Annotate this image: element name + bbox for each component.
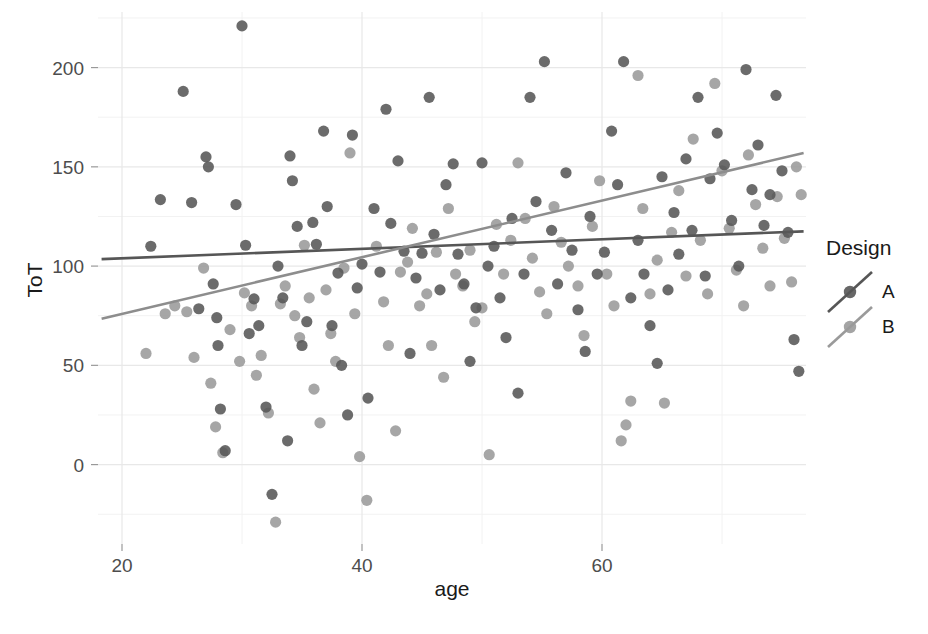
data-point-a (307, 217, 318, 228)
data-point-a (572, 304, 583, 315)
data-point-a (186, 197, 197, 208)
data-point-a (592, 268, 603, 279)
data-point-a (638, 268, 649, 279)
data-point-b (572, 280, 583, 291)
data-point-b (791, 161, 802, 172)
legend-title: Design (826, 236, 891, 259)
data-point-b (188, 352, 199, 363)
data-point-a (530, 196, 541, 207)
data-point-b (652, 255, 663, 266)
data-point-b (738, 300, 749, 311)
data-point-a (452, 249, 463, 260)
data-point-a (652, 358, 663, 369)
data-point-b (464, 245, 475, 256)
y-tick-label: 150 (52, 157, 84, 178)
data-point-b (644, 288, 655, 299)
data-point-a (404, 348, 415, 359)
data-point-b (256, 350, 267, 361)
data-point-a (266, 489, 277, 500)
data-point-a (292, 221, 303, 232)
data-point-b (314, 417, 325, 428)
data-point-b (512, 157, 523, 168)
data-point-a (311, 239, 322, 250)
data-point-a (212, 340, 223, 351)
data-point-b (431, 247, 442, 258)
data-point-a (385, 218, 396, 229)
data-point-a (518, 268, 529, 279)
data-point-a (632, 235, 643, 246)
data-point-a (336, 360, 347, 371)
y-tick-label: 100 (52, 256, 84, 277)
data-point-a (287, 175, 298, 186)
data-point-a (296, 340, 307, 351)
data-point-a (203, 161, 214, 172)
data-point-a (352, 282, 363, 293)
data-point-b (205, 378, 216, 389)
legend-key-dot-b (844, 321, 856, 333)
data-point-a (448, 158, 459, 169)
data-point-b (608, 300, 619, 311)
data-point-b (354, 451, 365, 462)
data-point-a (758, 220, 769, 231)
data-point-a (211, 312, 222, 323)
data-point-b (594, 175, 605, 186)
data-point-a (458, 278, 469, 289)
data-point-a (712, 127, 723, 138)
data-point-b (289, 310, 300, 321)
data-point-b (320, 284, 331, 295)
y-tick-label: 200 (52, 58, 84, 79)
data-point-b (421, 288, 432, 299)
data-point-a (625, 292, 636, 303)
data-point-b (469, 316, 480, 327)
data-point-a (612, 179, 623, 190)
data-point-b (443, 203, 454, 214)
data-point-b (383, 340, 394, 351)
data-point-b (616, 435, 627, 446)
data-point-b (587, 221, 598, 232)
data-point-b (601, 268, 612, 279)
x-tick-label: 40 (351, 555, 372, 576)
data-point-b (750, 199, 761, 210)
y-tick-label: 0 (73, 455, 84, 476)
data-point-a (618, 56, 629, 67)
data-point-a (248, 293, 259, 304)
scatter-plot-figure: 204060 050100150200 age ToT Design A B (0, 0, 928, 634)
data-point-b (390, 425, 401, 436)
data-point-a (494, 292, 505, 303)
data-point-b (764, 280, 775, 291)
data-point-b (484, 449, 495, 460)
data-point-a (236, 20, 247, 31)
data-point-b (280, 280, 291, 291)
data-point-a (342, 409, 353, 420)
data-point-b (786, 276, 797, 287)
data-point-b (702, 288, 713, 299)
data-point-b (688, 133, 699, 144)
data-point-a (606, 126, 617, 137)
data-point-b (198, 262, 209, 273)
data-point-b (709, 78, 720, 89)
data-point-a (580, 346, 591, 357)
data-point-b (527, 253, 538, 264)
data-point-a (155, 194, 166, 205)
data-point-a (566, 245, 577, 256)
data-point-a (770, 90, 781, 101)
data-point-a (482, 260, 493, 271)
data-point-a (673, 249, 684, 260)
data-point-a (240, 240, 251, 251)
data-point-a (668, 207, 679, 218)
data-point-a (347, 129, 358, 140)
data-point-b (680, 270, 691, 281)
data-point-b (304, 292, 315, 303)
data-point-a (692, 92, 703, 103)
data-point-a (464, 356, 475, 367)
data-point-a (215, 403, 226, 414)
data-point-a (746, 184, 757, 195)
legend-label-b: B (882, 316, 895, 337)
data-point-b (251, 370, 262, 381)
data-point-b (438, 372, 449, 383)
data-point-b (181, 306, 192, 317)
data-point-b (498, 268, 509, 279)
data-point-a (322, 201, 333, 212)
data-point-a (230, 199, 241, 210)
data-point-a (546, 225, 557, 236)
